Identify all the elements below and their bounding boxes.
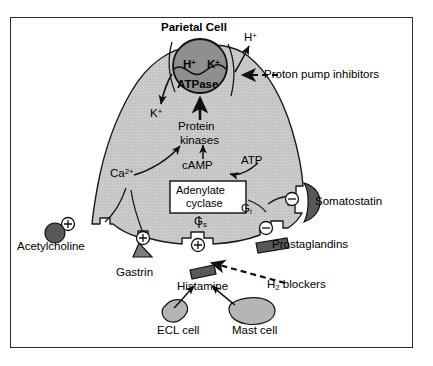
protein-kinases-line2: kinases: [180, 135, 219, 147]
pump-enzyme-label: ATPase: [177, 79, 218, 91]
h-efflux-label: H+: [244, 32, 257, 44]
ecl-cell-shape: [162, 300, 188, 322]
adenylate-cyclase-line2: cyclase: [186, 198, 223, 209]
h2-blockers-label: H2 blockers: [267, 279, 326, 292]
protein-kinases-line1: Protein: [178, 121, 214, 133]
page-title: Parietal Cell: [161, 22, 227, 34]
parietal-cell-diagram: [0, 0, 433, 366]
atp-label: ATP: [241, 155, 263, 167]
calcium-label: Ca2+: [110, 168, 134, 180]
prostaglandins-label: Prostaglandins: [272, 239, 348, 251]
somatostatin-label: Somatostatin: [315, 196, 382, 208]
g-stimulatory-label: Gs: [194, 216, 207, 229]
gastrin-label: Gastrin: [116, 267, 153, 279]
gastrin-receptor: [137, 232, 150, 245]
histamine-receptor: [192, 239, 205, 252]
histamine-label: Histamine: [177, 281, 228, 293]
pump-ion-h-label: H+: [183, 59, 196, 71]
mast-cell-label: Mast cell: [232, 325, 277, 337]
ecl-cell-label: ECL cell: [157, 325, 199, 337]
histamine-shape: [190, 265, 216, 279]
camp-label: cAMP: [182, 160, 213, 172]
somatostatin-receptor: [286, 193, 299, 206]
g-inhibitory-label: Gi: [241, 203, 252, 216]
acetylcholine-label: Acetylcholine: [17, 241, 85, 253]
proton-pump-inhibitors-label: Proton pump inhibitors: [264, 69, 379, 81]
pump-ion-k-label: K+: [207, 59, 220, 71]
k-influx-label: K+: [150, 108, 162, 120]
mast-cell-shape: [229, 298, 275, 325]
prostaglandin-receptor: [260, 222, 273, 235]
adenylate-cyclase-line1: Adenylate: [176, 185, 225, 196]
